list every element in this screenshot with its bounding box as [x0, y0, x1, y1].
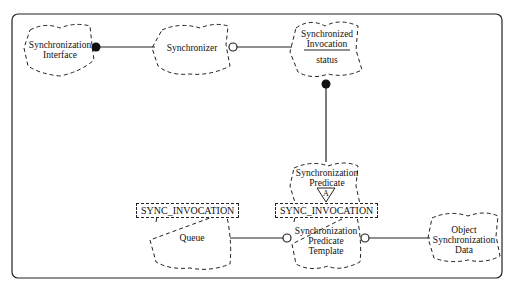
uses-open-circle-icon [361, 234, 369, 242]
template-param-queue: SYNC_INVOCATION [136, 203, 239, 218]
uses-open-circle-icon [283, 234, 291, 242]
label-sync-predicate: SynchronizationPredicate [296, 168, 358, 188]
has-filled-circle-icon [322, 80, 331, 89]
template-param-spt: SYNC_INVOCATION [275, 203, 378, 218]
label-synchronizer: Synchronizer [167, 43, 218, 53]
label-sync-interface: SynchronizationInterface [29, 40, 91, 60]
label-queue: Queue [180, 233, 205, 243]
label-sync-invocation: SynchronizedInvocation [301, 29, 353, 49]
label-spt: SynchronizationPredicateTemplate [295, 226, 357, 256]
has-filled-circle-icon [92, 43, 101, 52]
label-osd: ObjectSynchronizationData [433, 225, 495, 255]
label-abstract: A [323, 189, 329, 199]
uses-open-circle-icon [229, 43, 237, 51]
label-sync-invocation-attr: status [316, 55, 338, 65]
